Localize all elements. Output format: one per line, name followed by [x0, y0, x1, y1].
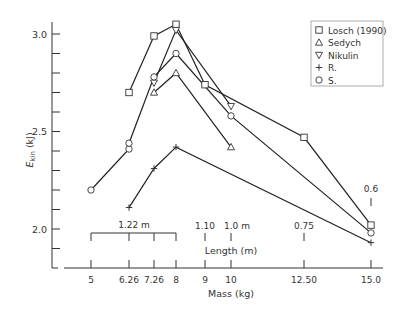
chart-canvas: 2.02.53.0 56.267.26891012.5015.0 1.22 m1…	[0, 0, 399, 314]
x-tick-label: 12.50	[291, 275, 317, 285]
y-tick-label: 2.0	[32, 224, 47, 235]
x-tick-label: 5	[88, 275, 94, 285]
circle-marker-icon	[228, 113, 234, 119]
y-tick-label: 3.0	[32, 29, 47, 40]
length-scale: 1.22 m1.101.0 m0.750.6	[91, 184, 378, 241]
legend-label: Sedych	[328, 38, 361, 48]
square-marker-icon	[202, 82, 208, 88]
square-marker-icon	[151, 33, 157, 39]
series-line	[154, 73, 231, 147]
series-line	[129, 147, 371, 243]
triangle-up-marker-icon	[173, 69, 180, 75]
square-marker-icon	[173, 21, 179, 27]
circle-marker-icon	[88, 187, 94, 193]
length-label: 0.75	[294, 221, 314, 231]
y-axis: 2.02.53.0	[32, 22, 60, 268]
length-label: 1.10	[195, 221, 215, 231]
legend-label: R.	[328, 63, 337, 73]
x-tick-label: 8	[173, 275, 179, 285]
legend: Losch (1990)SedychNikulinR.S.	[311, 21, 387, 86]
circle-marker-icon	[151, 74, 157, 80]
square-marker-icon	[301, 134, 307, 140]
length-label: 0.6	[364, 184, 379, 194]
x-axis-label: Mass (kg)	[208, 288, 254, 299]
x-axis: 56.267.26891012.5015.0	[64, 260, 383, 285]
x-tick-label: 9	[202, 275, 208, 285]
legend-label: S.	[328, 76, 337, 86]
length-axis-label: Length (m)	[205, 245, 257, 256]
x-tick-label: 6.26	[119, 275, 139, 285]
length-label: 1.22 m	[118, 220, 150, 230]
circle-marker-icon	[316, 77, 322, 83]
x-tick-label: 10	[225, 275, 237, 285]
circle-marker-icon	[368, 230, 374, 236]
square-marker-icon	[126, 89, 132, 95]
square-marker-icon	[316, 27, 322, 33]
square-marker-icon	[368, 222, 374, 228]
length-label: 1.0 m	[224, 221, 250, 231]
triangle-down-marker-icon	[228, 103, 235, 109]
circle-marker-icon	[173, 50, 179, 56]
circle-marker-icon	[126, 140, 132, 146]
legend-label: Losch (1990)	[328, 26, 387, 36]
legend-label: Nikulin	[328, 51, 359, 61]
x-tick-label: 15.0	[361, 275, 381, 285]
x-tick-label: 7.26	[144, 275, 164, 285]
y-axis-label: Ekin (kJ)	[24, 132, 37, 167]
